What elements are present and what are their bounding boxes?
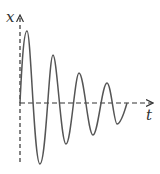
y-axis-label: x (6, 8, 15, 26)
x-axis-label: t (146, 106, 153, 124)
oscillation-curve (20, 31, 127, 164)
damped-oscillation-chart: x t (0, 0, 160, 174)
